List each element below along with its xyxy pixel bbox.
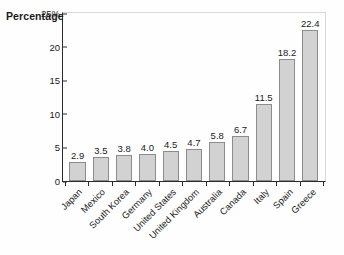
x-axis-tick-mark: [300, 182, 301, 186]
y-axis-tick-label: 25%: [41, 8, 63, 19]
bar-value-label: 6.7: [234, 124, 247, 135]
x-axis-tick-mark: [253, 182, 254, 186]
x-axis-tick-mark: [182, 182, 183, 186]
bar-slot: 11.5: [252, 13, 275, 181]
bar[interactable]: 4.7: [186, 149, 202, 181]
x-axis-labels: JapanMexicoSouth KoreaGermanyUnited Stat…: [62, 187, 326, 253]
bar-value-label: 2.9: [71, 150, 84, 161]
x-axis-category-label: Italy: [252, 187, 271, 206]
y-axis-tick: 15: [49, 75, 63, 86]
bar-slot: 2.9: [66, 13, 89, 181]
bar-slot: 18.2: [275, 13, 298, 181]
x-axis-tick-mark: [159, 182, 160, 186]
bar-value-label: 3.8: [118, 143, 131, 154]
x-axis-tick-mark: [112, 182, 113, 186]
y-axis-tick: 10: [49, 108, 63, 119]
y-axis-tick: 25%: [41, 8, 63, 19]
bar-value-label: 18.2: [278, 47, 297, 58]
bar-value-label: 4.7: [187, 137, 200, 148]
x-axis-category-label: Greece: [290, 187, 319, 216]
bar[interactable]: 4.5: [163, 151, 179, 181]
bar-slot: 22.4: [299, 13, 322, 181]
bar-value-label: 22.4: [301, 18, 320, 29]
bar[interactable]: 3.8: [116, 155, 132, 181]
bar[interactable]: 6.7: [232, 136, 248, 181]
bar-slot: 5.8: [206, 13, 229, 181]
x-axis-tick-mark: [65, 182, 66, 186]
bar-slot: 4.7: [182, 13, 205, 181]
y-axis-tick: 5: [55, 142, 63, 153]
x-axis-tick-mark: [229, 182, 230, 186]
x-axis-tick-mark: [135, 182, 136, 186]
bar-value-label: 11.5: [255, 92, 273, 103]
bar-slot: 3.5: [89, 13, 112, 181]
bar-value-label: 4.0: [141, 142, 154, 153]
y-axis-tick-label: 20: [49, 41, 63, 52]
bar[interactable]: 3.5: [93, 157, 109, 181]
y-axis-tick-label: 5: [55, 142, 63, 153]
bar[interactable]: 11.5: [256, 104, 272, 181]
bar-value-label: 5.8: [211, 130, 224, 141]
bar[interactable]: 4.0: [139, 154, 155, 181]
x-axis-tick-mark: [276, 182, 277, 186]
bar[interactable]: 2.9: [69, 162, 85, 181]
bar-chart: Percentage 0510152025% 2.93.53.84.04.54.…: [0, 0, 344, 255]
x-axis-tick-mark: [323, 182, 324, 186]
bars-container: 2.93.53.84.04.54.75.86.711.518.222.4: [63, 13, 325, 181]
bar-value-label: 4.5: [164, 139, 177, 150]
bar-value-label: 3.5: [94, 145, 107, 156]
y-axis-tick: 20: [49, 41, 63, 52]
bar[interactable]: 5.8: [209, 142, 225, 181]
y-axis-tick-label: 10: [49, 108, 63, 119]
plot-area: 0510152025% 2.93.53.84.04.54.75.86.711.5…: [62, 12, 326, 182]
y-axis-tick-label: 15: [49, 75, 63, 86]
bar-slot: 6.7: [229, 13, 252, 181]
x-axis-tick-mark: [206, 182, 207, 186]
bar-slot: 3.8: [113, 13, 136, 181]
bar-slot: 4.0: [136, 13, 159, 181]
bar[interactable]: 22.4: [302, 30, 318, 181]
x-axis-tick-mark: [88, 182, 89, 186]
bar[interactable]: 18.2: [279, 59, 295, 181]
bar-slot: 4.5: [159, 13, 182, 181]
